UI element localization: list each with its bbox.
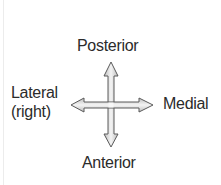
four-way-arrow-icon (0, 0, 221, 185)
